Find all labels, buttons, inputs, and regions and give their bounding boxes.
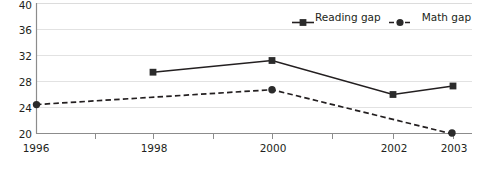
data-point-math-2000 bbox=[268, 86, 275, 93]
x-axis-ticks bbox=[96, 134, 454, 140]
legend-label-math-gap: Math gap bbox=[422, 12, 471, 23]
data-point-reading-1998 bbox=[150, 69, 157, 76]
data-point-reading-2002 bbox=[390, 91, 397, 98]
chart-legend: Reading gap Math gap bbox=[287, 12, 471, 23]
legend-marker-square-icon bbox=[287, 13, 311, 23]
x-tick-2003: 2003 bbox=[424, 142, 482, 154]
data-point-math-1996 bbox=[33, 101, 40, 108]
legend-label-reading-gap: Reading gap bbox=[315, 12, 381, 23]
legend-item-math-gap: Math gap bbox=[394, 12, 471, 23]
data-point-math-2003 bbox=[448, 129, 455, 136]
chart-container: Test score points 40 36 32 28 24 20 bbox=[0, 0, 482, 169]
legend-marker-circle-icon bbox=[394, 13, 418, 23]
x-tick-1998: 1998 bbox=[124, 142, 184, 154]
x-tick-2000: 2000 bbox=[243, 142, 303, 154]
x-tick-2002: 2002 bbox=[364, 142, 424, 154]
series-reading-gap bbox=[150, 57, 457, 98]
data-point-reading-2000 bbox=[269, 57, 276, 64]
data-point-reading-2003 bbox=[450, 83, 457, 90]
legend-item-reading-gap: Reading gap bbox=[287, 12, 381, 23]
x-tick-1996: 1996 bbox=[6, 142, 66, 154]
